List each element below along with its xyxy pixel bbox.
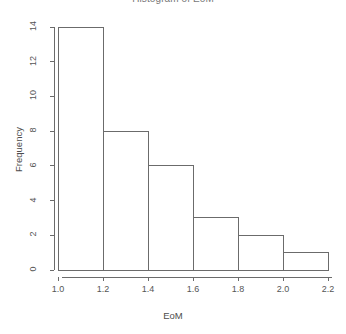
x-axis-label: EoM — [0, 310, 346, 321]
x-axis — [58, 277, 332, 281]
y-tick-label: 10 — [28, 84, 38, 106]
histogram-bar — [238, 235, 283, 270]
x-tick-label: 1.2 — [86, 284, 120, 294]
histogram-bar — [148, 166, 193, 270]
y-axis — [50, 27, 54, 270]
histogram-bar — [58, 27, 103, 270]
y-tick-label: 8 — [28, 119, 38, 141]
histogram-bar — [103, 131, 148, 270]
histogram-bar — [283, 253, 328, 270]
y-tick-label: 2 — [28, 223, 38, 245]
y-tick-label: 4 — [28, 189, 38, 211]
y-tick-label: 14 — [28, 15, 38, 37]
plot-area: 02468101214 1.01.21.41.61.82.02.2 — [0, 0, 346, 334]
histogram-plot: Histogram of EoM 02468101214 1.01.21.41.… — [0, 0, 346, 334]
x-tick-label: 2.2 — [311, 284, 345, 294]
histogram-bar — [193, 218, 238, 270]
x-tick-label: 2.0 — [266, 284, 300, 294]
x-tick-label: 1.8 — [221, 284, 255, 294]
y-tick-label: 0 — [28, 258, 38, 280]
y-tick-label: 6 — [28, 154, 38, 176]
x-tick-label: 1.4 — [131, 284, 165, 294]
y-tick-label: 12 — [28, 50, 38, 72]
bars-group — [58, 27, 328, 270]
x-tick-label: 1.0 — [41, 284, 75, 294]
x-tick-label: 1.6 — [176, 284, 210, 294]
y-axis-label: Frequency — [13, 110, 24, 190]
